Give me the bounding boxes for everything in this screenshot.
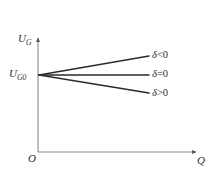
delta-relation: <0: [157, 49, 168, 60]
curve-label-delta-zero: δ=0: [152, 69, 168, 80]
origin-label: O: [28, 153, 36, 164]
y-axis-label-main: U: [18, 32, 26, 44]
y-intercept-label-main: U: [9, 67, 17, 79]
y-intercept-label-sub: G0: [17, 73, 26, 82]
curve-delta-positive: [39, 75, 149, 93]
x-axis-label: Q: [197, 155, 205, 166]
delta-relation: =0: [157, 68, 168, 79]
curve-delta-negative: [39, 56, 149, 75]
y-axis-label: UG: [18, 33, 32, 47]
curve-label-delta-positive: δ>0: [152, 88, 168, 99]
y-axis-label-sub: G: [26, 38, 32, 47]
delta-relation: >0: [157, 87, 168, 98]
curve-label-delta-negative: δ<0: [152, 50, 168, 61]
y-intercept-label: UG0: [9, 68, 26, 82]
figure-canvas: UG UG0 O Q δ<0 δ=0 δ>0: [0, 0, 213, 180]
